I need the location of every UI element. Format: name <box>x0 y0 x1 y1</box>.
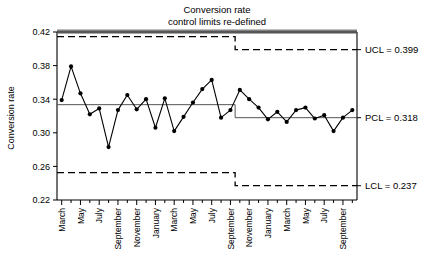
top-shaded-band <box>57 30 357 34</box>
x-axis-tick-labels: MarchMayJulySeptemberNovemberJanuaryMarc… <box>57 207 348 249</box>
data-point-marker <box>285 120 289 124</box>
y-axis-label: Conversion rate <box>6 86 16 150</box>
y-tick-label: 0.42 <box>32 27 50 37</box>
lcl-dashed-line <box>57 173 357 186</box>
chart-titles: Conversion rate control limits re-define… <box>168 4 266 27</box>
data-point-marker <box>125 93 129 97</box>
y-tick-label: 0.34 <box>32 95 50 105</box>
x-tick-label: January <box>151 207 161 238</box>
x-tick-label: May <box>188 207 198 224</box>
x-tick-label: July <box>319 207 329 223</box>
data-point-marker <box>219 116 223 120</box>
y-tick-label: 0.26 <box>32 162 50 172</box>
x-tick-label: September <box>226 208 236 250</box>
x-axis-ticks <box>62 200 353 205</box>
data-point-marker <box>163 96 167 100</box>
data-point-marker <box>69 64 73 68</box>
data-point-marker <box>266 117 270 121</box>
x-tick-label: January <box>263 207 273 238</box>
data-point-marker <box>275 110 279 114</box>
control-limit-lines <box>57 37 357 186</box>
x-tick-label: September <box>338 208 348 250</box>
data-point-marker <box>144 97 148 101</box>
data-point-marker <box>116 108 120 112</box>
x-tick-label: March <box>169 208 179 232</box>
data-point-marker <box>294 108 298 112</box>
data-point-marker <box>88 112 92 116</box>
x-tick-label: July <box>94 207 104 223</box>
chart-canvas: Conversion rate control limits re-define… <box>0 0 434 266</box>
data-point-marker <box>256 106 260 110</box>
y-tick-label: 0.30 <box>32 128 50 138</box>
data-point-marker <box>313 116 317 120</box>
data-series-line <box>62 66 353 147</box>
data-point-marker <box>97 106 101 110</box>
x-tick-label: May <box>76 207 86 224</box>
chart-subtitle: control limits re-defined <box>168 16 266 27</box>
data-point-marker <box>238 88 242 92</box>
y-axis-ticks: 0.420.380.340.300.260.22 <box>32 27 57 205</box>
conversion-rate-control-chart: Conversion rate control limits re-define… <box>0 0 434 266</box>
x-tick-label: July <box>207 207 217 223</box>
x-tick-label: March <box>282 208 292 232</box>
data-point-marker <box>200 87 204 91</box>
limit-annotations: UCL = 0.399PCL = 0.318LCL = 0.237 <box>357 44 418 191</box>
data-point-marker <box>78 91 82 95</box>
ucl-dashed-line <box>57 37 357 50</box>
series-polyline <box>62 66 353 147</box>
data-point-marker <box>322 113 326 117</box>
data-point-marker <box>228 108 232 112</box>
data-point-marker <box>153 126 157 130</box>
data-point-marker <box>247 97 251 101</box>
x-tick-label: November <box>132 208 142 247</box>
data-point-marker <box>210 78 214 82</box>
data-point-marker <box>303 106 307 110</box>
data-point-marker <box>331 129 335 133</box>
y-tick-label: 0.22 <box>32 195 50 205</box>
data-point-marker <box>60 98 64 102</box>
x-tick-label: March <box>57 208 67 232</box>
x-tick-label: September <box>113 208 123 250</box>
x-tick-label: May <box>301 207 311 224</box>
data-point-marker <box>350 108 354 112</box>
data-point-marker <box>106 145 110 149</box>
data-point-marker <box>191 100 195 104</box>
data-point-marker <box>181 115 185 119</box>
data-point-marker <box>341 116 345 120</box>
data-point-marker <box>172 129 176 133</box>
data-point-markers <box>60 64 355 149</box>
data-point-marker <box>135 107 139 111</box>
pcl-annotation-label: PCL = 0.318 <box>365 112 418 123</box>
lcl-annotation-label: LCL = 0.237 <box>365 180 417 191</box>
ucl-annotation-label: UCL = 0.399 <box>365 44 418 55</box>
x-tick-label: November <box>244 208 254 247</box>
chart-title: Conversion rate <box>183 4 250 15</box>
y-tick-label: 0.38 <box>32 61 50 71</box>
